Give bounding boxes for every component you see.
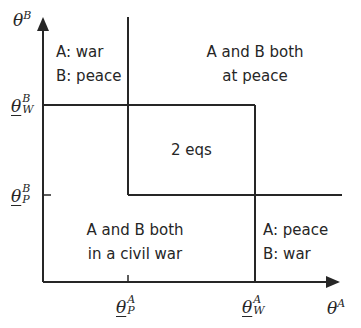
x-tick-theta-p-a: θAP <box>116 297 135 319</box>
region-top-left-label: A: war B: peace <box>56 42 122 86</box>
x-axis-label: θA <box>327 298 345 317</box>
y-tick-theta-w-b: θBW <box>11 96 34 118</box>
region-bottom-left-label: A and B both in a civil war <box>70 220 200 264</box>
y-axis-label: θB <box>13 10 31 29</box>
y-tick-theta-p-b: θBP <box>11 186 30 208</box>
x-tick-theta-w-a: θAW <box>242 297 265 319</box>
region-top-right-label: A and B both at peace <box>195 42 315 86</box>
region-middle-label: 2 eqs <box>171 140 212 160</box>
region-bottom-right-label: A: peace B: war <box>263 220 328 264</box>
